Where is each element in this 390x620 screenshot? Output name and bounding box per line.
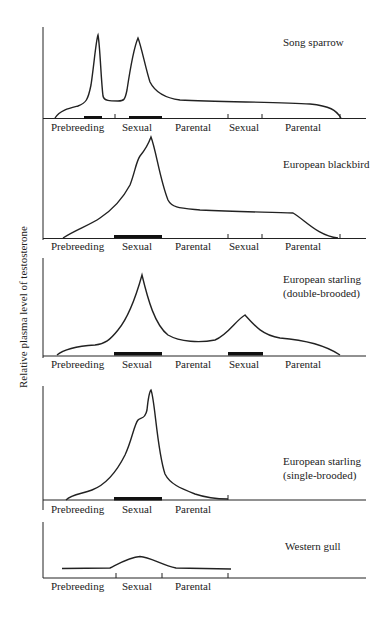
- phase-label: Sexual: [122, 240, 152, 252]
- phase-label: Prebreeding: [51, 503, 105, 515]
- panel-european-blackbird-labels: European blackbird Prebreeding Sexual Pa…: [51, 158, 370, 252]
- species-label: European starling: [283, 455, 361, 467]
- panel-western-gull-labels: Western gull Prebreeding Sexual Parental: [51, 540, 341, 592]
- species-label: Western gull: [285, 540, 341, 552]
- species-label: Song sparrow: [283, 36, 344, 48]
- phase-label: Parental: [285, 240, 321, 252]
- y-axis-label: Relative plasma level of testosterone: [17, 226, 29, 388]
- phase-label: Prebreeding: [51, 580, 105, 592]
- phase-label: Parental: [175, 503, 211, 515]
- phase-label: Sexual: [122, 503, 152, 515]
- phase-label: Prebreeding: [51, 358, 105, 370]
- species-label: European starling: [283, 273, 361, 285]
- phase-label: Parental: [285, 358, 321, 370]
- phase-label: Prebreeding: [51, 121, 105, 133]
- testosterone-chart: Relative plasma level of testosterone So…: [0, 0, 390, 620]
- phase-label: Parental: [175, 240, 211, 252]
- phase-label: Prebreeding: [51, 240, 105, 252]
- phase-label: Parental: [175, 358, 211, 370]
- phase-label: Sexual: [122, 358, 152, 370]
- phase-label: Parental: [175, 121, 211, 133]
- phase-label: Sexual: [229, 358, 259, 370]
- phase-label: Parental: [285, 121, 321, 133]
- panel-starling-single: [43, 386, 366, 510]
- species-label-sub: (double-brooded): [283, 287, 360, 300]
- panel-starling-double-labels: European starling (double-brooded) Prebr…: [51, 273, 361, 370]
- phase-label: Sexual: [229, 121, 259, 133]
- species-label: European blackbird: [283, 158, 370, 170]
- panel-european-blackbird: [43, 137, 366, 240]
- phase-label: Sexual: [229, 240, 259, 252]
- phase-label: Sexual: [122, 121, 152, 133]
- panel-starling-single-labels: European starling (single-brooded) Prebr…: [51, 455, 361, 515]
- phase-label: Sexual: [122, 580, 152, 592]
- phase-label: Parental: [175, 580, 211, 592]
- species-label-sub: (single-brooded): [283, 469, 357, 482]
